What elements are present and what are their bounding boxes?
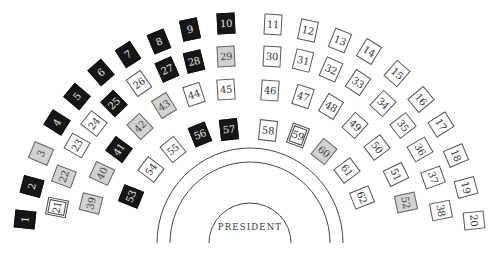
seat-58: 58: [258, 119, 278, 142]
president-label: PRESIDENT: [210, 222, 290, 232]
seat-21: 21: [45, 196, 69, 218]
seat-29: 29: [216, 45, 235, 67]
seat-52: 52: [394, 191, 418, 213]
seat-30: 30: [262, 45, 281, 67]
seat-45: 45: [216, 78, 235, 100]
seat-11: 11: [263, 13, 282, 35]
seat-57: 57: [219, 118, 239, 141]
seat-10: 10: [216, 12, 235, 34]
seat-46: 46: [260, 79, 279, 101]
seat-1: 1: [14, 209, 37, 229]
seat-38: 38: [429, 199, 453, 221]
senate-seating-diagram: 1234567891011121314151617181920212223242…: [0, 0, 497, 261]
seat-20: 20: [463, 210, 486, 230]
